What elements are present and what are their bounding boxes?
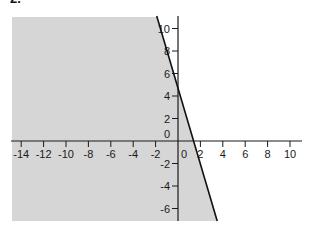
x-tick-label: 0	[181, 148, 187, 160]
y-tick-label: -4	[160, 180, 170, 192]
x-tick-label: 6	[242, 148, 248, 160]
x-tick-label: 10	[284, 148, 296, 160]
x-tick-label: -6	[106, 148, 116, 160]
x-tick-label: -8	[84, 148, 94, 160]
y-tick-label: -2	[160, 158, 170, 170]
y-tick-label: -6	[160, 203, 170, 215]
x-tick-label: 4	[220, 148, 226, 160]
y-tick-label: 6	[164, 68, 170, 80]
y-tick-label: 4	[164, 90, 170, 102]
inequality-graph: -14-12-10-8-6-4-20246810 1086420-2-4-6	[0, 0, 309, 226]
x-tick-label: -12	[36, 148, 52, 160]
x-tick-label: -10	[58, 148, 74, 160]
x-tick-label: 8	[265, 148, 271, 160]
x-tick-label: -14	[13, 148, 29, 160]
y-tick-label: 2	[164, 113, 170, 125]
y-tick-label: 0	[164, 128, 170, 140]
x-tick-label: -4	[128, 148, 138, 160]
x-tick-label: -2	[151, 148, 161, 160]
